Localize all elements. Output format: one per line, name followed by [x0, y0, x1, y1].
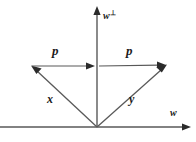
label-w-axis: w [170, 108, 177, 118]
projection-p-right-line [99, 65, 159, 66]
w-perp-axis-arrowhead-icon [93, 6, 100, 15]
vector-projection-figure: p p x y w w⊥ [0, 0, 196, 142]
label-w-perp-superscript: ⊥ [110, 9, 116, 17]
vector-x-line [37, 71, 97, 127]
label-p-right: p [126, 44, 133, 57]
vector-x [31, 66, 97, 128]
label-p-left: p [52, 44, 59, 57]
label-vector-x: x [47, 93, 53, 105]
vector-x-arrowhead-icon [31, 66, 42, 74]
figure-canvas [0, 0, 196, 142]
w-axis [0, 123, 191, 130]
projection-p-left-arrowhead-icon [86, 63, 95, 70]
label-w-perp-base: w [103, 10, 110, 21]
projection-p-right [99, 62, 166, 69]
w-axis-arrowhead-icon [182, 123, 191, 130]
label-vector-y: y [129, 93, 134, 105]
label-w-perp-axis: w⊥ [103, 10, 116, 21]
